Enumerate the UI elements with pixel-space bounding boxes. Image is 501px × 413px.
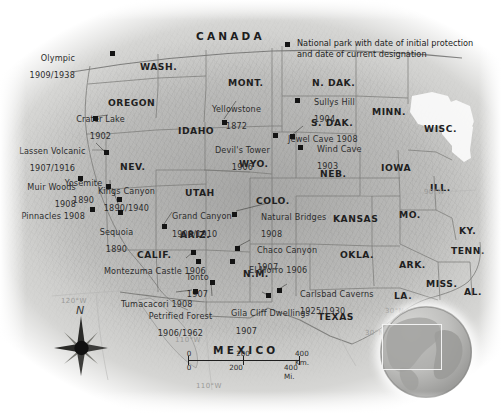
scale-bar: 0 200 400 Km. 0 200 400 Mi. [188,348,308,378]
globe-locator-inset [372,300,480,408]
map-figure: CANADA MEXICO WASH. OREGON IDAHO MONT. N… [0,0,501,413]
park-dates: 1906 [232,162,253,172]
state-label-ky: KY. [459,226,476,236]
park-marker-gila-cliff-dwellings[interactable] [266,293,271,298]
park-name: Carlsbad Caverns [300,289,374,299]
park-marker-sullys-hill[interactable] [295,98,300,103]
park-marker-olympic[interactable] [110,51,115,56]
park-name: Devil's Tower [215,145,270,155]
park-label-devils-tower: Devil's Tower 1906 [200,137,274,180]
legend-description: National park with date of initial prote… [297,38,473,59]
state-label-wisc: WISC. [424,124,457,134]
park-marker-crater-lake[interactable] [93,116,98,121]
state-label-mont: MONT. [228,78,264,88]
state-label-iowa: IOWA [381,163,411,173]
park-dates: 1909/1938 [30,70,75,80]
compass-north-label: N [76,304,84,317]
park-marker-jewel-cave[interactable] [290,134,295,139]
park-marker-yosemite[interactable] [106,184,111,189]
park-name: Crater Lake [76,114,125,124]
scale-mi-400: 400 Mi. [284,363,300,381]
park-dates: 1890 [106,244,127,254]
park-name: Wind Cave [317,144,362,154]
park-label-el-morro: El Morro 1906 [238,257,307,283]
park-label-grand-canyon: Grand Canyon 1908/1910 [161,203,232,247]
globe-sphere [380,306,472,398]
park-marker-yellowstone[interactable] [222,120,227,125]
park-dates: 1908/1910 [172,229,217,239]
park-name: Yellowstone [212,104,261,114]
park-dates: 1904 [314,114,335,124]
park-marker-pinnacles[interactable] [90,207,95,212]
park-name: Olympic [41,53,75,63]
park-marker-carlsbad-caverns[interactable] [277,288,282,293]
compass-rose: N [52,306,110,380]
park-dates: 1903 [317,161,338,171]
park-label-carlsbad-caverns: Carlsbad Caverns 1925/1930 [289,281,374,324]
state-label-kansas: KANSAS [333,214,378,224]
park-marker-natural-bridges[interactable] [232,212,237,217]
country-label-canada: CANADA [196,31,265,42]
map-legend: National park with date of initial prote… [285,38,473,59]
park-marker-kings-canyon[interactable] [117,197,122,202]
park-label-wind-cave: Wind Cave 1903 [306,136,362,179]
park-name: Sequoia [100,227,134,237]
park-name: Natural Bridges [261,212,326,222]
scale-km-200: 200 [236,349,250,358]
inset-extent-box [382,324,442,370]
park-name: Lassen Volcanic [19,146,85,156]
park-marker-grand-canyon[interactable] [162,224,167,229]
park-label-yellowstone: Yellowstone 1872 [196,96,266,139]
scale-mi-200: 200 [229,363,243,372]
park-name: Petrified Forest [149,311,213,321]
scale-mi-0: 0 [187,363,192,372]
state-label-ark: ARK. [399,260,426,270]
park-label-gila-cliff-dwellings: Gila Cliff Dwellings 1907 [220,300,262,344]
park-marker-sequoia[interactable] [118,210,123,215]
park-label-pinnacles: Pinnacles 1908 [0,203,85,229]
state-label-minn: MINN. [372,107,406,117]
state-label-miss: MISS. [426,279,457,289]
national-park-marker-icon [285,42,290,47]
compass-rose-icon [52,306,110,380]
park-marker-devils-tower[interactable] [273,133,278,138]
state-label-nev: NEV. [120,162,145,172]
state-label-al: AL. [464,287,482,297]
state-label-mo: MO. [399,210,421,220]
state-label-tenn: TENN. [451,246,485,256]
park-dates: 1925/1930 [300,306,345,316]
state-label-n-dak: N. DAK. [312,78,355,88]
park-name: Tonto [186,272,209,282]
park-marker-tumacacori[interactable] [193,289,198,294]
park-dates: 1890/1940 [104,203,149,213]
scale-km-0: 0 [187,349,192,358]
park-dates: 1872 [226,121,247,131]
park-marker-chaco-canyon[interactable] [235,246,240,251]
park-marker-el-morro[interactable] [230,259,235,264]
park-name: Chaco Canyon [257,245,317,255]
park-marker-muir-woods[interactable] [78,176,83,181]
park-label-olympic: Olympic 1909/1938 [0,45,75,88]
park-name: Sullys Hill [314,97,355,107]
graticule-label-90w: 90°W [424,189,445,196]
park-marker-petrified-forest[interactable] [210,280,215,285]
graticule-label-110w: 110°W [175,337,201,344]
state-label-wash: WASH. [140,62,177,72]
state-label-utah: UTAH [185,188,215,198]
park-name: Pinnacles 1908 [21,211,85,221]
park-marker-lassen-volcanic[interactable] [104,150,109,155]
park-dates: 1907 [236,326,257,336]
park-marker-wind-cave[interactable] [298,145,303,150]
park-label-sequoia: Sequoia 1890 [82,219,140,262]
park-name: Muir Woods [27,182,76,192]
park-name: El Morro 1906 [249,265,307,275]
park-name: Grand Canyon [172,211,232,221]
state-label-okla: OKLA. [340,250,374,260]
park-marker-tonto[interactable] [196,259,201,264]
park-marker-montezuma-castle[interactable] [191,250,196,255]
graticule-label-110w-b: 110°W [196,383,222,390]
